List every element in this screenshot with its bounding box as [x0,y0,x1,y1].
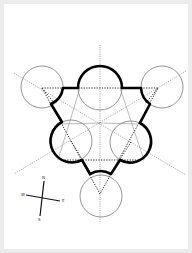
compass-we-arm [26,195,60,201]
compass-label-right: E [62,199,65,203]
circle-bottom [80,175,122,217]
dotted-triangle [42,88,158,194]
inner-construction-lines [58,88,144,160]
compass-label-bottom: S [38,218,41,222]
compass-label-left: W [21,193,25,197]
compass-rose [26,181,60,216]
triangle-circle-diagram [0,0,192,253]
compass-label-top: N [42,176,45,180]
thick-outline [51,66,151,174]
circles [21,66,183,217]
construction-axes [14,45,186,222]
